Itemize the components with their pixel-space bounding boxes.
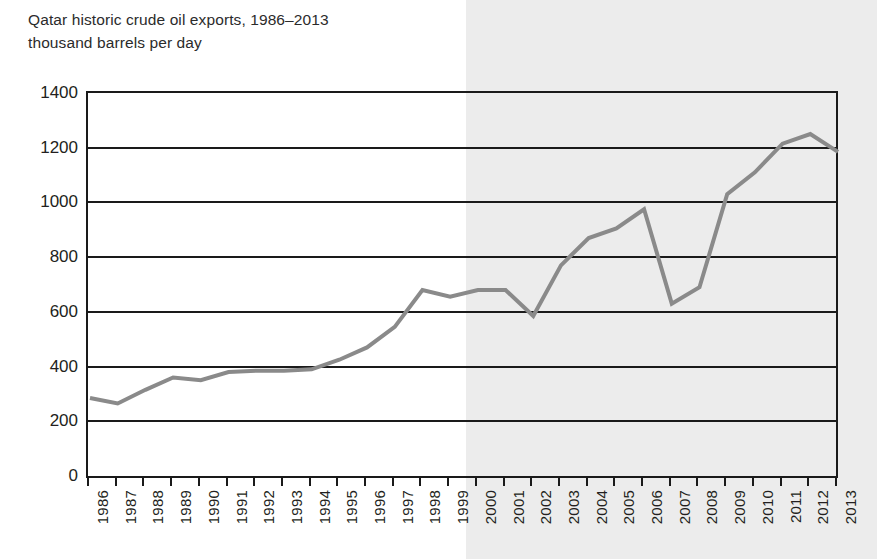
y-tick-label: 1200 [8, 138, 78, 158]
x-tick-mark [475, 478, 477, 486]
y-tick-label: 600 [8, 302, 78, 322]
x-tick-label: 1998 [426, 490, 443, 524]
x-tick-label: 1994 [316, 490, 333, 524]
x-tick-label: 1999 [454, 490, 471, 524]
x-tick-label: 1990 [205, 490, 222, 524]
x-tick-label: 1993 [288, 490, 305, 524]
chart-figure: Qatar historic crude oil exports, 1986–2… [0, 0, 877, 559]
x-tick-label: 2001 [510, 490, 527, 524]
chart-subtitle: thousand barrels per day [28, 31, 668, 54]
x-tick-label: 2008 [703, 490, 720, 524]
x-tick-mark [724, 478, 726, 486]
x-tick-mark [309, 478, 311, 486]
x-tick-mark [807, 478, 809, 486]
x-tick-mark [586, 478, 588, 486]
x-tick-mark [530, 478, 532, 486]
plot-inner [88, 93, 836, 476]
chart-title-block: Qatar historic crude oil exports, 1986–2… [28, 8, 668, 54]
x-tick-mark [87, 478, 89, 486]
x-tick-label: 1992 [260, 490, 277, 524]
x-tick-mark [226, 478, 228, 486]
x-tick-label: 1997 [399, 490, 416, 524]
x-tick-mark [336, 478, 338, 486]
x-tick-label: 1995 [343, 490, 360, 524]
x-tick-mark [447, 478, 449, 486]
x-tick-mark [419, 478, 421, 486]
x-tick-label: 2002 [537, 490, 554, 524]
x-tick-mark [641, 478, 643, 486]
x-tick-mark [835, 478, 837, 486]
x-tick-label: 2005 [620, 490, 637, 524]
x-tick-mark [253, 478, 255, 486]
x-tick-label: 2007 [676, 490, 693, 524]
y-tick-label: 1000 [8, 192, 78, 212]
x-tick-label: 2012 [814, 490, 831, 524]
x-tick-label: 2009 [731, 490, 748, 524]
x-tick-label: 2004 [593, 490, 610, 524]
plot-area [86, 91, 838, 478]
x-tick-label: 2011 [787, 490, 804, 523]
x-tick-mark [696, 478, 698, 486]
x-tick-mark [364, 478, 366, 486]
x-tick-mark [752, 478, 754, 486]
x-tick-mark [392, 478, 394, 486]
x-axis-labels: 1986198719881989199019911992199319941995… [86, 478, 838, 559]
x-tick-mark [558, 478, 560, 486]
x-tick-label: 1989 [177, 490, 194, 524]
x-tick-mark [170, 478, 172, 486]
x-tick-label: 2003 [565, 490, 582, 524]
x-tick-mark [115, 478, 117, 486]
x-tick-label: 1987 [122, 490, 139, 524]
x-tick-label: 1991 [233, 490, 250, 524]
x-tick-label: 2013 [842, 490, 859, 524]
y-tick-label: 1400 [8, 83, 78, 103]
y-tick-label: 0 [8, 466, 78, 486]
x-tick-label: 1986 [94, 490, 111, 524]
y-tick-label: 400 [8, 357, 78, 377]
x-tick-label: 1996 [371, 490, 388, 524]
x-tick-label: 2006 [648, 490, 665, 524]
x-tick-mark [780, 478, 782, 486]
x-tick-mark [613, 478, 615, 486]
series-polyline [90, 134, 838, 403]
x-tick-mark [669, 478, 671, 486]
y-tick-label: 800 [8, 247, 78, 267]
x-tick-mark [281, 478, 283, 486]
x-tick-mark [142, 478, 144, 486]
x-tick-label: 1988 [149, 490, 166, 524]
x-tick-label: 2010 [759, 490, 776, 524]
x-tick-mark [198, 478, 200, 486]
y-tick-label: 200 [8, 411, 78, 431]
y-axis-labels: 0200400600800100012001400 [2, 91, 78, 478]
x-tick-label: 2000 [482, 490, 499, 524]
page-title: Qatar historic crude oil exports, 1986–2… [28, 8, 668, 31]
x-tick-mark [503, 478, 505, 486]
data-series-line [88, 93, 836, 476]
